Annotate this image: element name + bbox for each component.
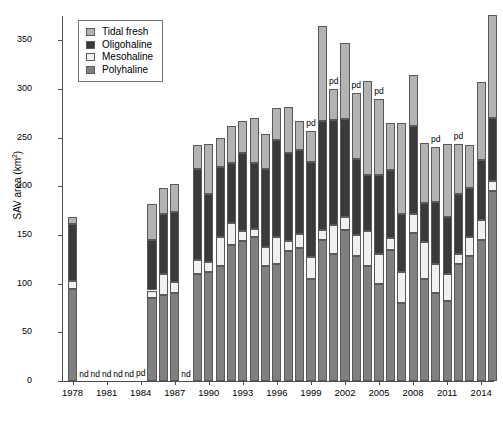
bar-segment-tidal-fresh-2005 [374,99,383,175]
bar-segment-polyhaline-1986 [159,295,168,381]
bar-1997 [284,107,293,381]
legend-swatch-icon [86,53,95,61]
bar-segment-mesohaline-1993 [238,231,247,241]
x-tick-label-2008: 2008 [396,388,430,398]
partial-data-marker-2001: pd [324,77,344,86]
x-tick-mark-2002 [345,381,346,385]
bar-2004 [363,81,372,381]
bar-segment-mesohaline-2007 [397,272,406,303]
bar-segment-tidal-fresh-1994 [250,118,259,163]
bar-segment-tidal-fresh-1989 [193,145,202,168]
bar-segment-oligohaline-2006 [386,170,395,238]
x-tick-label-1993: 1993 [226,388,260,398]
legend-swatch-icon [86,41,95,49]
bar-segment-polyhaline-2013 [465,256,474,381]
x-tick-mark-1990 [209,381,210,385]
x-tick-mark-2014 [481,381,482,385]
partial-data-marker-1999: pd [301,119,321,128]
x-tick-label-2002: 2002 [328,388,362,398]
bar-segment-mesohaline-1989 [193,260,202,274]
bar-segment-mesohaline-2012 [454,254,463,264]
bar-segment-polyhaline-2000 [318,240,327,381]
y-tick-label: 300 [6,84,32,93]
legend-label: Tidal fresh [102,27,148,37]
bar-segment-polyhaline-2008 [409,233,418,381]
bar-1987 [170,184,179,381]
bar-2003 [352,93,361,381]
bar-segment-mesohaline-2004 [363,231,372,266]
x-tick-mark-2008 [413,381,414,385]
y-axis-title-tail: ) [12,151,23,154]
bar-segment-oligohaline-1985 [147,240,156,291]
bar-segment-polyhaline-1999 [306,279,315,381]
bar-segment-oligohaline-2003 [352,159,361,235]
bar-segment-tidal-fresh-2000 [318,26,327,121]
bar-segment-mesohaline-1994 [250,229,259,237]
x-tick-mark-2011 [447,381,448,385]
bar-1993 [238,121,247,381]
y-tick-mark [58,381,62,382]
x-tick-label-1987: 1987 [158,388,192,398]
bar-segment-tidal-fresh-1990 [204,144,213,195]
bar-1985 [147,204,156,381]
bar-segment-mesohaline-1997 [284,241,293,251]
legend-swatch-icon [86,28,95,36]
bar-1991 [216,138,225,381]
y-tick-label: 0 [6,376,32,385]
bar-2009 [420,143,429,381]
bar-segment-tidal-fresh-1995 [261,134,270,169]
bar-segment-polyhaline-1996 [272,264,281,381]
bar-segment-polyhaline-1997 [284,251,293,381]
bar-segment-oligohaline-1999 [306,162,315,257]
x-tick-mark-1999 [311,381,312,385]
x-tick-mark-1981 [107,381,108,385]
legend-label: Polyhaline [102,65,148,75]
bar-segment-tidal-fresh-2012 [454,144,463,195]
y-axis-title-superscript: 2 [11,154,18,158]
bar-segment-tidal-fresh-1985 [147,204,156,240]
bar-1992 [227,126,236,381]
bar-segment-oligohaline-1993 [238,153,247,231]
bar-segment-polyhaline-2001 [329,254,338,381]
bar-segment-mesohaline-1987 [170,282,179,294]
bar-segment-oligohaline-2001 [329,120,338,225]
bar-segment-tidal-fresh-2010 [431,147,440,202]
bar-segment-oligohaline-2000 [318,121,327,230]
bar-1986 [159,188,168,381]
bar-segment-tidal-fresh-2011 [443,144,452,218]
x-tick-mark-1984 [141,381,142,385]
bar-2015 [488,15,497,381]
no-data-marker-1988: nd [176,370,196,379]
bar-segment-oligohaline-2012 [454,194,463,254]
bar-1990 [204,144,213,381]
bar-segment-polyhaline-2003 [352,256,361,381]
bar-1996 [272,108,281,381]
bar-segment-oligohaline-2008 [409,126,418,214]
bar-segment-mesohaline-2005 [374,254,383,283]
bar-segment-mesohaline-2002 [340,217,349,231]
y-tick-label: 100 [6,279,32,288]
bar-segment-polyhaline-2009 [420,279,429,381]
bar-segment-mesohaline-2010 [431,264,440,293]
bar-segment-tidal-fresh-1992 [227,126,236,163]
bar-segment-mesohaline-1990 [204,262,213,272]
bar-segment-polyhaline-2014 [477,240,486,381]
bar-segment-polyhaline-1994 [250,237,259,381]
bar-segment-mesohaline-1985 [147,291,156,299]
bar-segment-oligohaline-2004 [363,175,372,231]
bar-segment-mesohaline-2008 [409,214,418,233]
bar-segment-oligohaline-1998 [295,150,304,234]
bar-segment-oligohaline-2014 [477,160,486,220]
bar-segment-mesohaline-1991 [216,237,225,266]
bar-1998 [295,121,304,381]
bar-segment-oligohaline-2002 [340,119,349,216]
bar-segment-polyhaline-1992 [227,245,236,381]
y-tick-label: 200 [6,181,32,190]
x-tick-label-1978: 1978 [56,388,90,398]
bar-segment-oligohaline-1991 [216,167,225,237]
bar-segment-mesohaline-1986 [159,274,168,295]
bar-segment-tidal-fresh-1997 [284,107,293,154]
bar-segment-tidal-fresh-2006 [386,123,395,170]
bar-segment-polyhaline-2002 [340,230,349,381]
bar-2010 [431,147,440,381]
